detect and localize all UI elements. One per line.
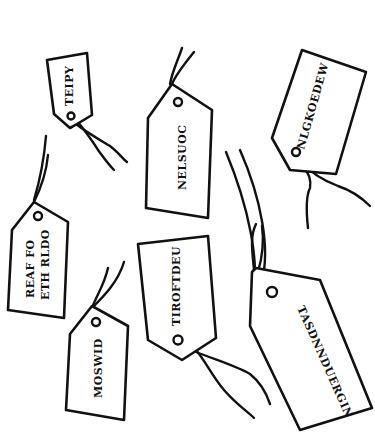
tag-reaf-fo-eth-rldo: REAF FO ETH RLDO xyxy=(8,136,68,318)
tag-hole xyxy=(267,287,277,297)
tag-hole xyxy=(92,318,100,326)
string xyxy=(226,152,255,290)
tag-hole xyxy=(174,336,183,345)
string xyxy=(34,155,48,202)
tag-label-line-1: REAF FO xyxy=(24,239,37,298)
tag-nelsuoc: NELSUOC xyxy=(146,48,212,218)
tag-label: TIROFTDEU xyxy=(170,246,183,326)
tag-nlgkoedew: NLGKOEDEW xyxy=(272,50,370,228)
tags-illustration: TEIPY NELSUOC NLGKOEDEW REAF FO ETH RLDO… xyxy=(0,0,375,434)
tag-moswid: MOSWID xyxy=(66,262,128,420)
tag-hole xyxy=(34,212,42,220)
tag-label: NELSUOC xyxy=(176,124,189,190)
string xyxy=(92,268,108,308)
string xyxy=(196,352,270,404)
string xyxy=(258,226,263,272)
string xyxy=(196,350,254,418)
tag-label: MOSWID xyxy=(92,338,105,398)
tag-hole xyxy=(174,98,182,106)
tag-label: TEIPY xyxy=(63,66,76,106)
tag-teipy: TEIPY xyxy=(47,53,127,170)
tag-label-line-2: ETH RLDO xyxy=(39,229,52,300)
tag-hole xyxy=(68,113,75,120)
